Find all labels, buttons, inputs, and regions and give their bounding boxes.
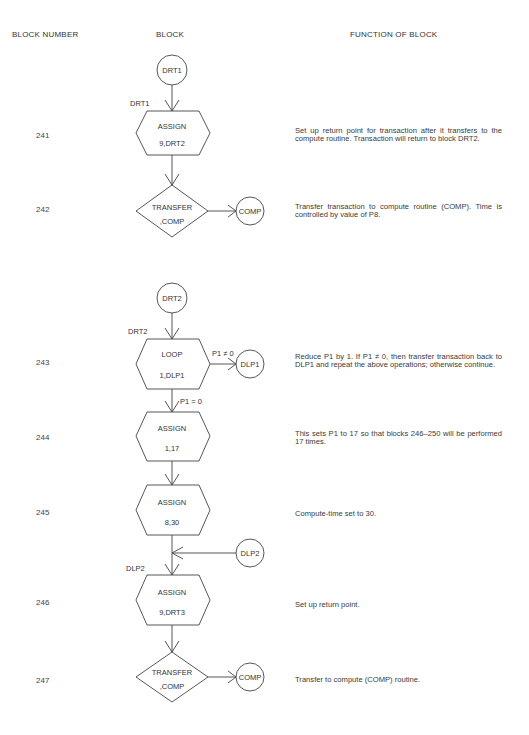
transfer1-line1: TRANSFER [152, 203, 193, 212]
drt1-circle-text: DRT1 [162, 66, 181, 75]
dlp2-label: DLP2 [126, 564, 145, 573]
transfer-block-247 [136, 652, 208, 702]
assign-block-244 [136, 412, 210, 461]
assign-block-246 [136, 575, 210, 625]
dlp2-circle-text: DLP2 [241, 549, 260, 558]
drt2-circle-text: DRT2 [162, 294, 181, 303]
assign4-line2: 9,DRT3 [159, 608, 185, 617]
assign-block-245 [136, 485, 210, 535]
drt2-label: DRT2 [128, 327, 147, 336]
assign2-line1: ASSIGN [158, 424, 186, 433]
comp1-circle-text: COMP [239, 207, 262, 216]
loop-line1: LOOP [162, 350, 183, 359]
assign1-line2: 9,DRT2 [159, 139, 185, 148]
dlp1-circle-text: DLP1 [241, 360, 260, 369]
drt1-label: DRT1 [130, 99, 149, 108]
comp2-circle-text: COMP [239, 673, 262, 682]
flowchart: DRT1 ASSIGN 9,DRT2 TRANSFER ,COMP COMP D… [0, 0, 529, 735]
assign3-line2: 8,30 [165, 518, 180, 527]
assign-block-241 [136, 111, 210, 155]
transfer1-line2: ,COMP [160, 217, 185, 226]
assign4-line1: ASSIGN [158, 588, 186, 597]
assign3-line1: ASSIGN [158, 498, 186, 507]
assign1-line1: ASSIGN [158, 122, 186, 131]
loop-line2: 1,DLP1 [159, 371, 184, 380]
transfer2-line1: TRANSFER [152, 668, 193, 677]
loop-block-243 [136, 339, 210, 389]
loop-condition-ne: P1 ≠ 0 [212, 349, 234, 358]
loop-condition-eq: P1 = 0 [180, 397, 202, 406]
assign2-line2: 1,17 [165, 444, 180, 453]
transfer2-line2: ,COMP [160, 682, 185, 691]
